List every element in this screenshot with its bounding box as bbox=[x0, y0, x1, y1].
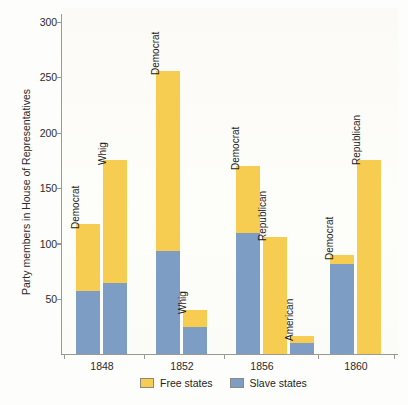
y-tick-label-100: 100 bbox=[40, 238, 57, 250]
x-label-1856: 1856 bbox=[237, 360, 287, 372]
bar-label-1856-democrat: Democrat bbox=[230, 127, 241, 170]
y-tick-label-300: 300 bbox=[40, 16, 57, 28]
x-label-1860: 1860 bbox=[331, 360, 381, 372]
legend-label-slave-states: Slave states bbox=[250, 377, 307, 389]
bar-1860-republican-free bbox=[357, 160, 381, 354]
x-tick-1860 bbox=[318, 354, 319, 359]
y-axis-line bbox=[61, 14, 62, 355]
y-tick-mark-250 bbox=[57, 77, 61, 78]
bar-1852-democrat-free bbox=[156, 71, 180, 252]
y-tick-mark-200 bbox=[57, 133, 61, 134]
legend-swatch-free-states-icon bbox=[140, 378, 154, 388]
chart-legend: Free states Slave states bbox=[140, 377, 307, 389]
bar-1848-whig-slave bbox=[103, 283, 127, 354]
legend-item-free-states: Free states bbox=[140, 377, 213, 389]
y-tick-label-50: 50 bbox=[46, 293, 57, 305]
y-tick-label-150: 150 bbox=[40, 182, 57, 194]
y-tick-mark-300 bbox=[57, 22, 61, 23]
bar-label-1860-republican: Republican bbox=[351, 115, 362, 165]
y-tick-mark-100 bbox=[57, 243, 61, 244]
x-tick-1852 bbox=[144, 354, 145, 359]
bar-label-1856-american: American bbox=[284, 299, 295, 341]
stacked-bar-chart: 300 250 200 150 100 50 Party members in … bbox=[0, 0, 408, 405]
bar-1856-american-slave bbox=[290, 343, 314, 354]
bar-label-1852-whig: Whig bbox=[177, 291, 188, 314]
x-label-1848: 1848 bbox=[77, 360, 127, 372]
bar-1848-democrat-slave bbox=[76, 291, 100, 354]
y-tick-label-250: 250 bbox=[40, 71, 57, 83]
bar-1848-democrat-free bbox=[76, 224, 100, 291]
bar-label-1852-democrat: Democrat bbox=[150, 32, 161, 75]
bar-label-1848-whig: Whig bbox=[97, 142, 108, 165]
y-axis-title: Party members in House of Representative… bbox=[20, 67, 32, 317]
bar-label-1848-democrat: Democrat bbox=[70, 186, 81, 229]
x-tick-1848 bbox=[64, 354, 65, 359]
x-tick-1856 bbox=[224, 354, 225, 359]
bar-1860-democrat-slave bbox=[330, 264, 354, 354]
legend-label-free-states: Free states bbox=[160, 377, 213, 389]
legend-item-slave-states: Slave states bbox=[230, 377, 307, 389]
bar-label-1856-republican: Republican bbox=[257, 191, 268, 241]
bar-1856-democrat-slave bbox=[236, 233, 260, 354]
legend-swatch-slave-states-icon bbox=[230, 378, 244, 388]
bar-1848-whig-free bbox=[103, 160, 127, 283]
bar-label-1860-democrat: Democrat bbox=[324, 217, 335, 260]
x-tick-end bbox=[394, 354, 395, 359]
y-tick-300: 300 bbox=[0, 16, 57, 28]
bar-1852-whig-slave bbox=[183, 327, 207, 354]
y-tick-mark-150 bbox=[57, 188, 61, 189]
y-tick-label-200: 200 bbox=[40, 127, 57, 139]
x-label-1852: 1852 bbox=[157, 360, 207, 372]
y-tick-mark-50 bbox=[57, 299, 61, 300]
